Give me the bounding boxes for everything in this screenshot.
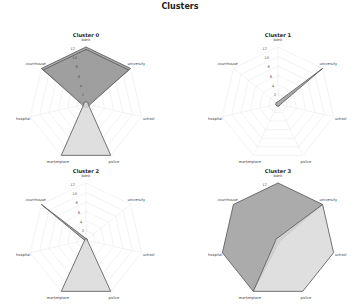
r-tick-label: 10: [72, 56, 77, 60]
axis-label-courthouse: courthouse: [26, 62, 47, 66]
axis-label-school: school: [143, 117, 155, 121]
spoke: [222, 104, 278, 117]
r-tick-label: 12: [70, 47, 75, 51]
panel-title: Cluster 2: [73, 168, 100, 174]
r-tick-label: 2: [274, 93, 276, 97]
axis-label-university: university: [127, 62, 146, 66]
r-tick-label: 4: [272, 84, 275, 88]
axis-label-marketplace: marketplace: [239, 160, 262, 164]
axis-label-courthouse: courthouse: [218, 62, 239, 66]
axis-label-marketplace: marketplace: [239, 296, 262, 300]
spoke: [30, 240, 86, 253]
panel-title: Cluster 0: [73, 32, 100, 38]
axis-label-school: school: [335, 253, 347, 257]
r-tick-label: 12: [262, 47, 267, 51]
axis-label-school: school: [143, 253, 155, 257]
axis-label-police: police: [109, 160, 120, 164]
r-tick-label: 2: [82, 229, 84, 233]
axis-label-bank: bank: [274, 174, 284, 178]
radar-panel-0: bankuniversityschoolpolicemarketplacehos…: [16, 32, 154, 164]
panel-title: Cluster 1: [265, 32, 292, 38]
axis-label-university: university: [319, 62, 338, 66]
radar-charts: bankuniversityschoolpolicemarketplacehos…: [0, 0, 360, 305]
r-tick-label: 10: [72, 192, 77, 196]
r-tick-label: 8: [268, 65, 271, 69]
r-tick-label: 12: [70, 183, 75, 187]
series-polygon: [61, 239, 110, 292]
spoke: [30, 104, 86, 117]
series-polygon: [43, 49, 128, 107]
axis-label-bank: bank: [82, 38, 92, 42]
spoke: [86, 104, 142, 117]
radar-panel-3: bankuniversityschoolpolicemarketplacehos…: [208, 168, 346, 300]
axis-label-police: police: [301, 296, 312, 300]
axis-label-hospital: hospital: [16, 117, 30, 121]
axis-label-courthouse: courthouse: [218, 198, 239, 202]
r-tick-label: 8: [76, 201, 79, 205]
spoke: [86, 204, 131, 240]
spoke: [278, 104, 334, 117]
axis-label-marketplace: marketplace: [47, 296, 70, 300]
radar-panel-1: bankuniversityschoolpolicemarketplacehos…: [208, 32, 346, 164]
axis-label-hospital: hospital: [208, 117, 222, 121]
axis-label-university: university: [127, 198, 146, 202]
radar-panel-2: bankuniversityschoolpolicemarketplacehos…: [16, 168, 154, 300]
axis-label-university: university: [319, 198, 338, 202]
axis-label-hospital: hospital: [208, 253, 222, 257]
axis-label-courthouse: courthouse: [26, 198, 47, 202]
spoke: [86, 240, 142, 253]
r-tick-label: 4: [80, 220, 83, 224]
r-tick-label: 12: [262, 183, 267, 187]
axis-label-police: police: [109, 296, 120, 300]
axis-label-bank: bank: [274, 38, 284, 42]
r-tick-label: 10: [264, 56, 269, 60]
axis-label-marketplace: marketplace: [47, 160, 70, 164]
panel-title: Cluster 3: [265, 168, 292, 174]
axis-label-school: school: [335, 117, 347, 121]
axis-label-bank: bank: [82, 174, 92, 178]
axis-label-hospital: hospital: [16, 253, 30, 257]
r-tick-label: 2: [82, 93, 84, 97]
axis-label-police: police: [301, 160, 312, 164]
